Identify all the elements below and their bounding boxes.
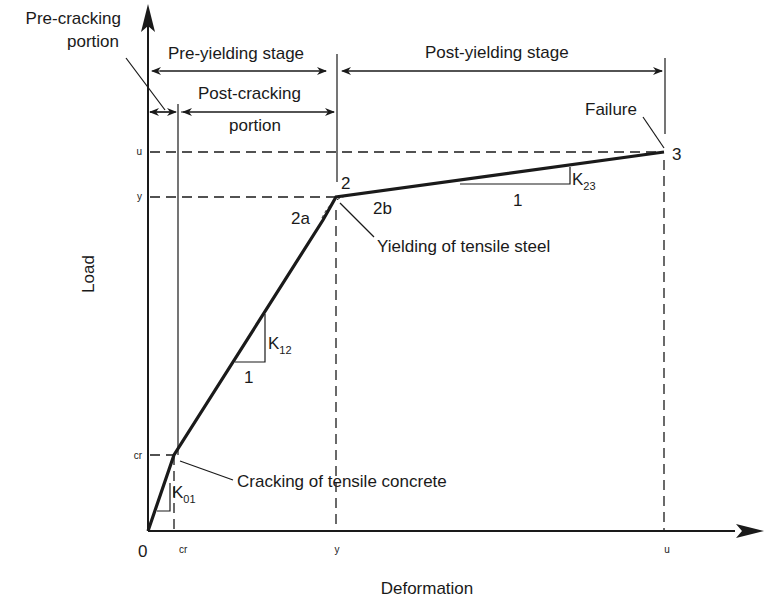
point-2b-label: 2b <box>373 199 392 218</box>
pre-cracking-leader <box>126 58 165 110</box>
tick-y-y: y <box>137 191 142 202</box>
cracking-label: Cracking of tensile concrete <box>237 472 447 491</box>
k23-label: K23 <box>572 170 596 192</box>
k12-label: K12 <box>268 334 292 356</box>
tick-x-cr: cr <box>179 544 188 555</box>
failure-leader <box>643 117 664 148</box>
y-axis-label: Load <box>79 255 98 293</box>
x-axis-label: Deformation <box>381 579 474 598</box>
k23-one-label: 1 <box>513 191 522 210</box>
pre-cracking-label: Pre-cracking <box>26 9 121 28</box>
origin-label: 0 <box>138 542 147 561</box>
point-3-label: 3 <box>672 145 681 164</box>
pre-cracking-label-2: portion <box>67 32 119 51</box>
slope-triangles <box>157 167 570 511</box>
pre-yielding-label: Pre-yielding stage <box>168 44 304 63</box>
dimension-arrows <box>126 58 664 480</box>
post-cracking-label: Post-cracking <box>198 84 301 103</box>
x-axis-arrow-icon <box>736 524 764 538</box>
post-yielding-label: Post-yielding stage <box>425 43 569 62</box>
cracking-leader <box>180 461 233 480</box>
point-2a-label: 2a <box>291 209 310 228</box>
post-cracking-label-2: portion <box>229 116 281 135</box>
yielding-label: Yielding of tensile steel <box>377 237 550 256</box>
point-2-label: 2 <box>341 174 350 193</box>
k01-label: K01 <box>172 483 196 505</box>
load-deformation-diagram: Pre-cracking portion Pre-yielding stage … <box>0 0 774 610</box>
tick-x-y: y <box>335 544 340 555</box>
tick-y-cr: cr <box>134 450 143 461</box>
k23-triangle <box>460 167 570 184</box>
yielding-leader <box>340 203 374 237</box>
failure-label: Failure <box>585 100 637 119</box>
tick-y-u: u <box>136 146 142 157</box>
tick-x-u: u <box>664 544 670 555</box>
k12-one-label: 1 <box>244 368 253 387</box>
